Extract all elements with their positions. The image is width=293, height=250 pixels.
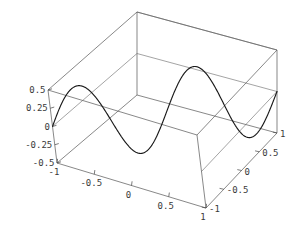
plot-3d-container: 0.50.250-0.25-0.5-1-0.500.51-1-0.500.51 <box>0 0 293 250</box>
y-tick-label-3: 0.5 <box>262 148 278 158</box>
parametric-curve <box>53 67 278 154</box>
parametric-plot-3d-svg: 0.50.250-0.25-0.5-1-0.500.51-1-0.500.51 <box>0 0 293 250</box>
z-tick-label-0: 0.5 <box>29 85 45 95</box>
tick-labels: 0.50.250-0.25-0.5-1-0.500.51-1-0.500.51 <box>25 85 285 222</box>
y-tick-label-0: -1 <box>209 204 220 214</box>
y-tick-label-1: -0.5 <box>227 185 249 195</box>
z-tick-label-3: -0.25 <box>25 140 52 150</box>
grid-lines <box>53 12 278 172</box>
x-tick-label-3: 0.5 <box>158 201 174 211</box>
x-tick-label-0: -1 <box>49 167 60 177</box>
x-tick-label-1: -0.5 <box>80 178 102 188</box>
y-tick-label-4: 1 <box>280 129 285 139</box>
x-tick-label-4: 1 <box>200 212 205 222</box>
x-tick-label-2: 0 <box>126 190 131 200</box>
z-tick-label-2: 0 <box>45 122 50 132</box>
curve-series <box>53 67 278 154</box>
y-tick-label-2: 0 <box>245 167 250 177</box>
z-tick-label-1: 0.25 <box>26 103 48 113</box>
